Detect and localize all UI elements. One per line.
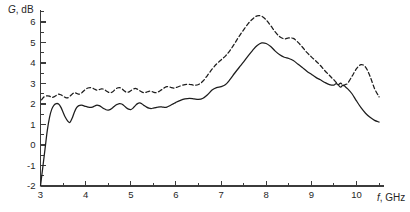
x-tick-label: 9 — [309, 189, 314, 200]
y-axis-title: G, dB — [8, 4, 34, 15]
chart-figure: 345678910-2-10123456 G, dB f, GHz — [0, 0, 410, 212]
x-tick-label: 4 — [83, 189, 88, 200]
y-tick-label: 0 — [30, 139, 35, 150]
x-tick-label: 3 — [38, 189, 43, 200]
x-tick-label: 7 — [218, 189, 223, 200]
data-curves-group — [41, 16, 380, 186]
dashed-data-curve — [41, 16, 379, 100]
x-tick-label: 6 — [173, 189, 178, 200]
y-tick-label: 5 — [30, 37, 35, 48]
y-tick-label: -1 — [27, 160, 35, 171]
axes-group — [41, 10, 384, 186]
y-tick-label: 1 — [30, 119, 35, 130]
line-chart-plot: 345678910-2-10123456 G, dB f, GHz — [0, 0, 410, 212]
y-tick-label: 4 — [30, 57, 35, 68]
tick-labels-group: 345678910-2-10123456 — [27, 16, 362, 200]
x-axis-title: f, GHz — [377, 192, 405, 203]
x-tick-label: 5 — [128, 189, 133, 200]
y-tick-label: 2 — [30, 98, 35, 109]
axis-unit-text: , dB — [16, 4, 34, 15]
solid-data-curve — [41, 43, 380, 186]
ticks-group — [41, 12, 380, 186]
y-tick-label: -2 — [27, 180, 35, 191]
y-tick-label: 3 — [30, 78, 35, 89]
x-tick-label: 10 — [351, 189, 362, 200]
y-tick-label: 6 — [30, 16, 35, 27]
axis-titles-group: G, dB f, GHz — [8, 4, 405, 203]
x-tick-label: 8 — [264, 189, 269, 200]
axis-unit-text: , GHz — [380, 192, 406, 203]
